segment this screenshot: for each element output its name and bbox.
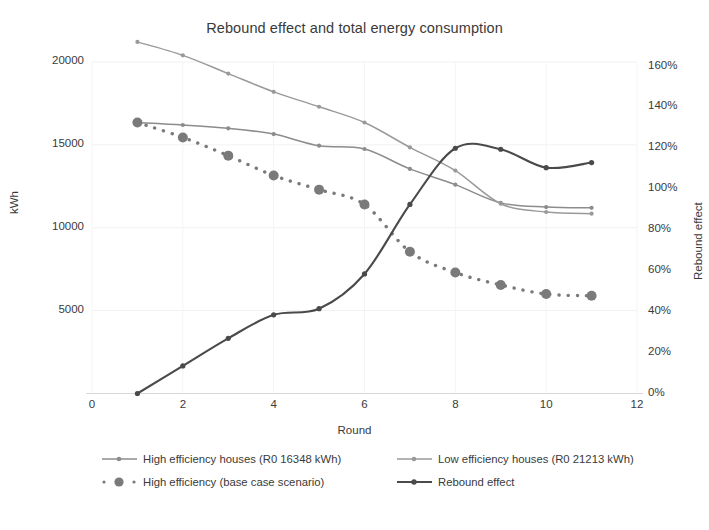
chart-container: Rebound effect and total energy consumpt…: [0, 0, 709, 530]
data-point: [317, 144, 321, 148]
data-point: [135, 40, 139, 44]
data-point: [541, 289, 551, 299]
data-point: [544, 165, 549, 170]
data-point: [450, 268, 460, 278]
data-point: [587, 291, 597, 301]
data-point: [362, 120, 366, 124]
data-point: [226, 126, 230, 130]
data-point: [226, 336, 231, 341]
legend-label: Rebound effect: [438, 476, 514, 488]
data-point: [544, 205, 548, 209]
data-point: [316, 306, 321, 311]
data-point: [544, 210, 548, 214]
data-point: [181, 123, 185, 127]
data-point: [453, 168, 457, 172]
data-point: [272, 132, 276, 136]
legend-marker-icon: [100, 452, 140, 466]
data-point: [407, 202, 412, 207]
legend-item[interactable]: High efficiency (base case scenario): [100, 471, 324, 493]
data-point: [408, 145, 412, 149]
data-point: [223, 151, 233, 161]
data-point: [496, 280, 506, 290]
legend-item[interactable]: Rebound effect: [395, 471, 514, 493]
data-point: [269, 171, 279, 181]
data-point: [271, 312, 276, 317]
data-point: [226, 72, 230, 76]
data-point: [180, 363, 185, 368]
legend-item[interactable]: High efficiency houses (R0 16348 kWh): [100, 448, 341, 470]
data-point: [314, 185, 324, 195]
data-point: [408, 167, 412, 171]
data-point: [499, 202, 503, 206]
data-point: [132, 118, 142, 128]
data-point: [405, 247, 415, 257]
legend-marker-icon: [395, 452, 435, 466]
data-point: [362, 271, 367, 276]
legend-label: High efficiency houses (R0 16348 kWh): [143, 453, 341, 465]
legend-item[interactable]: Low efficiency houses (R0 21213 kWh): [395, 448, 634, 470]
data-point: [589, 212, 593, 216]
data-point: [178, 132, 188, 142]
data-point: [589, 160, 594, 165]
data-point: [453, 183, 457, 187]
data-point: [362, 147, 366, 151]
data-point: [498, 147, 503, 152]
legend-label: High efficiency (base case scenario): [143, 476, 324, 488]
data-point: [317, 105, 321, 109]
data-point: [589, 206, 593, 210]
data-point: [181, 53, 185, 57]
data-point: [360, 200, 370, 210]
legend-label: Low efficiency houses (R0 21213 kWh): [438, 453, 634, 465]
data-point: [272, 90, 276, 94]
data-point: [453, 146, 458, 151]
data-point: [135, 391, 140, 396]
chart-legend: High efficiency houses (R0 16348 kWh)Low…: [100, 448, 660, 500]
legend-marker-icon: [395, 475, 435, 489]
legend-marker-icon: [100, 475, 140, 489]
